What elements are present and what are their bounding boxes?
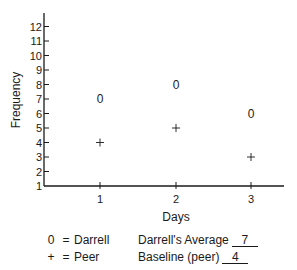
darrell-point: 0: [248, 107, 255, 121]
y-tick-label: 1: [36, 180, 42, 192]
darrell-point: 0: [97, 92, 104, 106]
y-tick-label: 2: [36, 166, 42, 178]
darrell-average: Darrell's Average7: [138, 232, 258, 249]
baseline-peer-label: Baseline (peer): [138, 250, 219, 264]
legend-label-darrell: Darrell: [74, 233, 109, 247]
peer-marker-symbol: +: [44, 249, 58, 266]
y-tick-label: 8: [36, 79, 42, 91]
axes: 123456789101112123DaysFrequency: [9, 13, 284, 224]
darrell-marker-symbol: 0: [44, 232, 58, 249]
summary: Darrell's Average7 Baseline (peer)4: [138, 232, 258, 266]
y-tick-label: 9: [36, 64, 42, 76]
baseline-peer: Baseline (peer)4: [138, 249, 258, 266]
baseline-peer-value: 4: [222, 251, 248, 264]
peer-point: [172, 124, 180, 132]
frequency-chart: 123456789101112123DaysFrequency 000: [0, 0, 297, 225]
y-tick-label: 3: [36, 151, 42, 163]
y-axis-label: Frequency: [9, 72, 23, 129]
y-tick-label: 4: [36, 137, 42, 149]
x-axis-label: Days: [162, 210, 189, 224]
legend-label-peer: Peer: [74, 250, 99, 264]
x-tick-label: 1: [97, 193, 103, 205]
darrell-point: 0: [173, 78, 180, 92]
legend-item-darrell: 0=Darrell: [44, 232, 109, 249]
y-tick-label: 6: [36, 108, 42, 120]
data-points: 000: [96, 78, 255, 162]
peer-point: [247, 153, 255, 161]
x-tick-label: 3: [248, 193, 254, 205]
y-tick-label: 12: [30, 21, 42, 33]
legend-item-peer: +=Peer: [44, 249, 109, 266]
y-tick-label: 5: [36, 122, 42, 134]
darrell-average-label: Darrell's Average: [138, 233, 229, 247]
y-tick-label: 10: [30, 50, 42, 62]
y-tick-label: 7: [36, 93, 42, 105]
x-tick-label: 2: [173, 193, 179, 205]
y-tick-label: 11: [31, 35, 42, 47]
darrell-average-value: 7: [232, 234, 258, 247]
peer-point: [96, 139, 104, 147]
legend: 0=Darrell +=Peer: [44, 232, 109, 266]
